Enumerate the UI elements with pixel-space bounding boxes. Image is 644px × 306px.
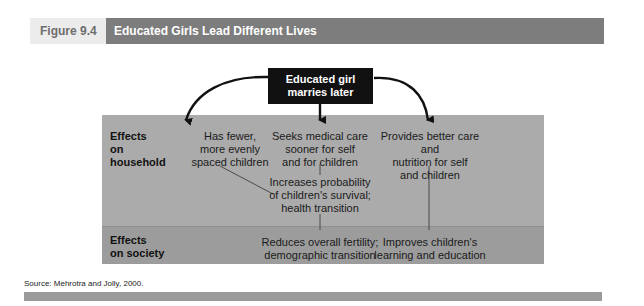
- row-label-household: Effects on household: [110, 130, 166, 169]
- node-medical-care: Seeks medical care sooner for self and f…: [260, 130, 380, 169]
- arrow-to-better-care: [374, 78, 428, 120]
- arrow-to-fewer-children: [186, 77, 268, 120]
- node-better-care: Provides better care and nutrition for s…: [372, 130, 488, 182]
- node-education: Improves children's learning and educati…: [372, 236, 488, 262]
- source-note: Source: Mehrotra and Jolly, 2000.: [24, 279, 143, 288]
- bottom-rule: [24, 292, 602, 301]
- root-node: Educated girlmarries later: [268, 68, 373, 104]
- node-fertility: Reduces overall fertility; demographic t…: [250, 236, 390, 262]
- node-survival: Increases probability of children's surv…: [260, 176, 380, 215]
- row-label-society: Effects on society: [110, 234, 164, 260]
